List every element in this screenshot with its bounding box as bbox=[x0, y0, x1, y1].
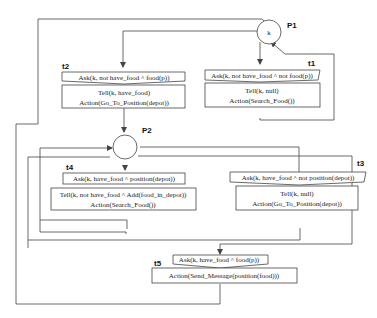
ask-text: Ask(k, have_food ^ food(p)) bbox=[179, 256, 260, 264]
place-token: k bbox=[267, 29, 271, 37]
action-text: Action(Go_To_Position(depot)) bbox=[79, 99, 169, 107]
petri-net-diagram: k P1 P2 t1 Ask(k, not have_food ^ not fo… bbox=[0, 0, 377, 318]
place-p2[interactable]: P2 bbox=[113, 126, 152, 159]
transition-t4[interactable]: t4 Ask(k, have_food ^ position(depot)) T… bbox=[51, 163, 196, 210]
action-text: Action(Send_Message(position(food))) bbox=[169, 272, 280, 280]
place-p1[interactable]: k P1 bbox=[257, 20, 297, 44]
tell-text: Tell(k, null) bbox=[280, 190, 314, 198]
ask-text: Ask(k, have_food ^ position(depot)) bbox=[73, 175, 176, 183]
place-label: P2 bbox=[142, 126, 152, 135]
action-text: Action(Search_Food()) bbox=[90, 201, 156, 209]
transition-label: t2 bbox=[62, 62, 70, 71]
transition-label: t1 bbox=[308, 59, 316, 68]
tell-text: Tell(k, null) bbox=[245, 87, 279, 95]
transition-t3[interactable]: t3 Ask(k, have_food ^ not position(depot… bbox=[230, 159, 366, 210]
action-text: Action(Search_Food()) bbox=[229, 97, 295, 105]
place-label: P1 bbox=[287, 21, 297, 30]
ask-text: Ask(k, not have_food ^ food(p)) bbox=[79, 74, 171, 82]
ask-text: Ask(k, have_food ^ not position(depot)) bbox=[242, 174, 355, 182]
tell-text: Tell(k, not have_food ^ Add(food_in_depo… bbox=[60, 191, 187, 199]
transition-label: t4 bbox=[66, 163, 74, 172]
transition-t2[interactable]: t2 Ask(k, not have_food ^ food(p)) Tell(… bbox=[62, 62, 185, 108]
transition-t1[interactable]: t1 Ask(k, not have_food ^ not food(p)) T… bbox=[205, 59, 320, 107]
action-text: Action(Go_To_Position(depot)) bbox=[252, 200, 342, 208]
transition-label: t5 bbox=[154, 259, 162, 268]
tell-text: Tell(k, have_food) bbox=[98, 89, 151, 97]
transition-t5[interactable]: t5 Ask(k, have_food ^ food(p)) Action(Se… bbox=[152, 255, 297, 283]
transition-label: t3 bbox=[357, 159, 365, 168]
ask-text: Ask(k, not have_food ^ not food(p)) bbox=[211, 72, 313, 80]
